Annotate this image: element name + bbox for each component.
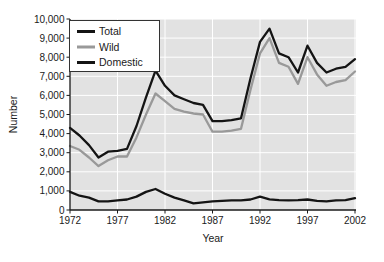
y-tick-label: 6,000 (39, 90, 64, 101)
y-tick-label: 7,000 (39, 71, 64, 82)
legend-label-total: Total (99, 25, 121, 37)
x-tick-label: 1977 (106, 215, 129, 226)
x-tick-label: 1997 (296, 215, 319, 226)
legend-label-domestic: Domestic (99, 56, 143, 68)
y-tick-label: 3,000 (39, 147, 64, 158)
line-chart-svg: 01,0002,0003,0004,0005,0006,0007,0008,00… (0, 0, 384, 262)
x-tick-label: 1972 (59, 215, 82, 226)
y-tick-label: 4,000 (39, 128, 64, 139)
x-tick-label: 2002 (344, 215, 367, 226)
x-axis-title: Year (202, 232, 224, 244)
y-axis-title: Number (7, 95, 19, 133)
x-tick-label: 1982 (154, 215, 177, 226)
x-tick-label: 1987 (201, 215, 224, 226)
y-tick-label: 9,000 (39, 33, 64, 44)
x-tick-label: 1992 (249, 215, 272, 226)
y-tick-label: 10,000 (34, 14, 65, 25)
y-tick-label: 8,000 (39, 52, 64, 63)
y-tick-label: 2,000 (39, 166, 64, 177)
y-tick-label: 1,000 (39, 185, 64, 196)
y-tick-label: 5,000 (39, 109, 64, 120)
chart-figure: 01,0002,0003,0004,0005,0006,0007,0008,00… (0, 0, 384, 262)
legend-label-wild: Wild (99, 41, 120, 53)
